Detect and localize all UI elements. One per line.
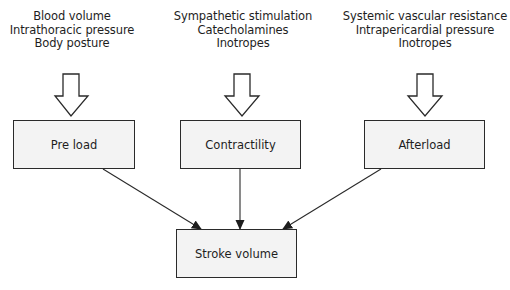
contractility-label: Contractility: [205, 138, 275, 152]
hollow-down-arrow-icon-afterload: [408, 74, 442, 116]
hollow-down-arrow-icon-contractility: [225, 74, 259, 116]
contractility-box: Contractility: [180, 120, 301, 169]
factor-systemic-vascular-resistance: Systemic vascular resistance: [340, 10, 510, 24]
afterload-factors: Systemic vascular resistance Intraperica…: [340, 10, 510, 51]
contractility-factors: Sympathetic stimulation Catecholamines I…: [158, 10, 328, 51]
connector-arrow-afterload: [283, 169, 381, 229]
preload-box: Pre load: [13, 120, 135, 169]
stroke-volume-box: Stroke volume: [176, 229, 297, 278]
factor-blood-volume: Blood volume: [0, 10, 157, 24]
factor-body-posture: Body posture: [0, 37, 157, 51]
preload-label: Pre load: [51, 138, 98, 152]
afterload-box: Afterload: [364, 120, 485, 169]
stroke-volume-label: Stroke volume: [195, 247, 278, 261]
factor-intrapericardial-pressure: Intrapericardial pressure: [340, 24, 510, 38]
hollow-down-arrow-icon-preload: [55, 74, 88, 116]
factor-catecholamines: Catecholamines: [158, 24, 328, 38]
factor-inotropes: Inotropes: [340, 37, 510, 51]
afterload-label: Afterload: [398, 138, 450, 152]
preload-factors: Blood volume Intrathoracic pressure Body…: [0, 10, 157, 51]
factor-intrathoracic-pressure: Intrathoracic pressure: [0, 24, 157, 38]
factor-sympathetic-stimulation: Sympathetic stimulation: [158, 10, 328, 24]
connector-arrow-preload: [103, 169, 201, 229]
factor-inotropes: Inotropes: [158, 37, 328, 51]
